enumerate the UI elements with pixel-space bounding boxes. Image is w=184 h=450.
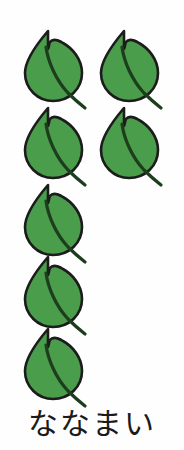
leaf-icon bbox=[98, 28, 164, 110]
leaf-icon bbox=[22, 182, 88, 264]
leaf-icon bbox=[22, 105, 88, 187]
leaf-blade bbox=[101, 108, 158, 178]
leaf-blade bbox=[101, 31, 158, 101]
leaf-icon bbox=[22, 28, 88, 110]
leaf-icon bbox=[22, 254, 88, 336]
leaf-blade bbox=[25, 31, 82, 101]
leaf-blade bbox=[25, 108, 82, 178]
leaf-blade bbox=[25, 329, 82, 399]
leaf-blade bbox=[25, 257, 82, 327]
leaf-illustration-group bbox=[0, 0, 184, 400]
leaf-icon bbox=[98, 105, 164, 187]
caption: ななまい bbox=[0, 398, 184, 450]
caption-text: ななまい bbox=[28, 409, 156, 439]
leaf-blade bbox=[25, 185, 82, 255]
counting-flashcard: ななまい bbox=[0, 0, 184, 450]
leaf-icon bbox=[22, 326, 88, 408]
